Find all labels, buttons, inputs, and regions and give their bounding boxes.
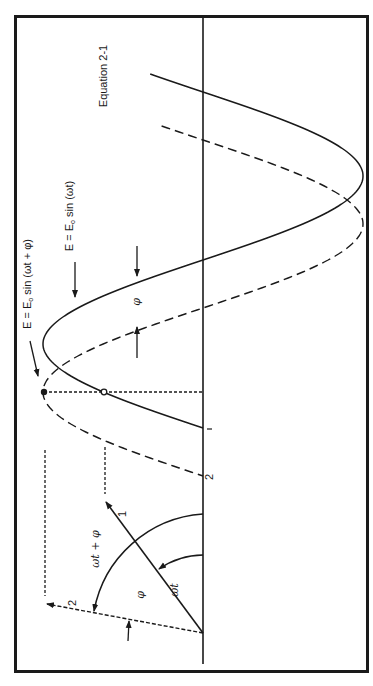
leading-curve-label: E = Eo sin (ωt + φ)	[21, 239, 34, 329]
leading-label-arrow	[30, 341, 38, 376]
arc-omega-t-plus-phi-label: ωt + φ	[89, 530, 102, 568]
figure-border	[16, 17, 368, 672]
phase-gap-label: φ	[130, 298, 143, 306]
reference-curve-label: E = Eo sin (ωt)	[63, 181, 76, 251]
intersection-point-open	[101, 389, 107, 395]
phasor-2-indicator-arrow	[128, 621, 129, 641]
angle-phi-label: φ	[134, 591, 147, 599]
peak-point-filled	[41, 389, 47, 395]
arc-omega-t-label: ωt	[168, 583, 181, 597]
phasor-1-arrow	[106, 502, 203, 633]
arc-omega-t-plus-phi	[94, 514, 203, 611]
phasor-2-arrow	[47, 604, 203, 633]
axis-tick-label-2: 2	[203, 474, 215, 480]
phasor-1-label: 1	[116, 511, 128, 517]
phase-shift-diagram: 2 φ Equation 2-1 E = Eo sin (ωt) E = Eo …	[0, 0, 373, 686]
arc-omega-t	[159, 555, 203, 569]
phasor-2-label: 2	[66, 600, 78, 606]
equation-label: Equation 2-1	[97, 45, 109, 107]
